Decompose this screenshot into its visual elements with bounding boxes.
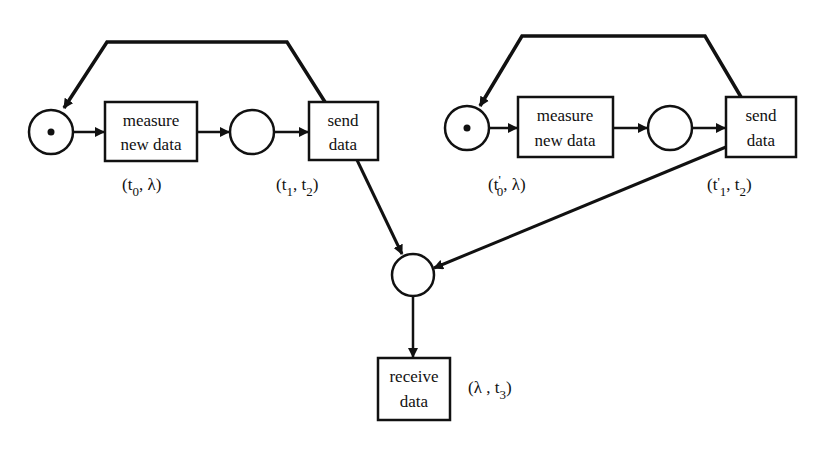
left-measure-line1: measure [123,111,180,130]
right-feedback-arc [480,36,741,106]
right-send-to-merge-arc [434,147,726,268]
right-start-token [464,125,471,132]
receive-line1: receive [389,367,438,386]
merge-section: receive data (λ , t3) [357,147,726,420]
right-measure-annotation: (t'0, λ) [488,172,526,199]
left-net: measure new data send data (t0, λ) (t1, … [29,42,378,199]
left-send-line2: data [329,135,358,154]
left-send-annotation: (t1, t2) [276,175,318,199]
right-measure-line1: measure [537,106,594,125]
right-send-line1: send [745,106,777,125]
petri-net-diagram: measure new data send data (t0, λ) (t1, … [0,0,820,451]
left-measure-line2: new data [121,135,182,154]
right-middle-place[interactable] [648,106,692,150]
merge-place[interactable] [392,254,434,296]
left-measure-annotation: (t0, λ) [122,175,161,199]
left-feedback-arc [64,42,325,108]
right-send-line2: data [747,131,776,150]
right-send-annotation: (t'1, t2) [707,174,752,199]
right-net: measure new data send data (t'0, λ) (t'1… [445,36,796,199]
receive-annotation: (λ , t3) [468,378,512,402]
left-start-token [48,129,55,136]
left-middle-place[interactable] [230,110,274,154]
left-send-line1: send [327,111,359,130]
receive-line2: data [400,392,429,411]
left-send-to-merge-arc [357,160,402,254]
right-measure-line2: new data [535,131,596,150]
